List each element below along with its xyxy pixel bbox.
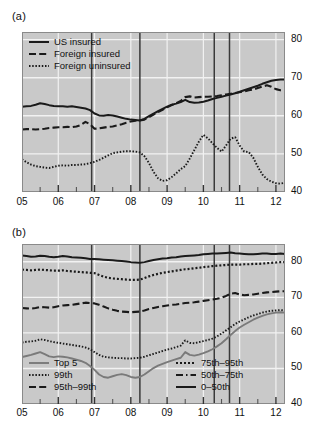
legend-label: Foreign uninsured xyxy=(54,60,131,72)
x-tick-label: 11 xyxy=(230,407,250,418)
panel-a-label: (a) xyxy=(12,10,26,22)
x-tick-label: 06 xyxy=(48,196,68,207)
panel-b-label: (b) xyxy=(12,226,26,238)
panel-a-legend-item[interactable]: Foreign insured xyxy=(28,48,131,60)
legend-key-dashdot xyxy=(175,370,197,380)
legend-key-solid-gray xyxy=(28,358,50,368)
x-tick-label: 07 xyxy=(85,196,105,207)
y-tick-label: 80 xyxy=(291,33,313,44)
legend-key-solid xyxy=(175,382,197,392)
x-tick-label: 09 xyxy=(157,407,177,418)
legend-key-dotted-thick xyxy=(175,358,197,368)
legend-label: 95th–99th xyxy=(54,381,96,393)
legend-label: US insured xyxy=(54,36,101,48)
x-tick-label: 12 xyxy=(266,407,286,418)
legend-label: Foreign insured xyxy=(54,48,120,60)
x-tick-label: 08 xyxy=(121,407,141,418)
x-tick-label: 05 xyxy=(12,196,32,207)
y-tick-label: 60 xyxy=(291,326,313,337)
y-tick-label: 50 xyxy=(291,361,313,372)
panel-b-legend-item[interactable]: 0–50th xyxy=(175,381,243,393)
panel-b-legend-item[interactable]: 50th–75th xyxy=(175,369,243,381)
panel-a-legend-item[interactable]: US insured xyxy=(28,36,131,48)
x-tick-label: 06 xyxy=(48,407,68,418)
legend-key-dashed xyxy=(28,49,50,59)
x-tick-label: 05 xyxy=(12,407,32,418)
legend-label: 50th–75th xyxy=(201,369,243,381)
y-tick-label: 50 xyxy=(291,147,313,158)
legend-label: 0–50th xyxy=(201,381,230,393)
x-tick-label: 11 xyxy=(230,196,250,207)
y-tick-label: 40 xyxy=(291,185,313,196)
panel-b-legend-item[interactable]: 95th–99th xyxy=(28,381,96,393)
legend-key-dashed xyxy=(28,382,50,392)
x-tick-label: 10 xyxy=(193,407,213,418)
x-tick-label: 07 xyxy=(85,407,105,418)
y-tick-label: 40 xyxy=(291,397,313,408)
legend-key-solid xyxy=(28,37,50,47)
legend-key-dotted xyxy=(28,370,50,380)
panel-a-legend: US insuredForeign insuredForeign uninsur… xyxy=(28,36,131,72)
x-tick-label: 08 xyxy=(121,196,141,207)
legend-key-dotted xyxy=(28,61,50,71)
panel-b-legend-right: 75th–95th50th–75th0–50th xyxy=(175,357,243,393)
panel-a-legend-item[interactable]: Foreign uninsured xyxy=(28,60,131,72)
legend-label: 75th–95th xyxy=(201,357,243,369)
panel-b: (b) Top 599th95th–99th 75th–95th50th–75t… xyxy=(0,216,326,441)
panel-a: (a) US insuredForeign insuredForeign uni… xyxy=(0,0,326,216)
legend-label: 99th xyxy=(54,369,73,381)
y-tick-label: 70 xyxy=(291,290,313,301)
x-tick-label: 12 xyxy=(266,196,286,207)
legend-label: Top 5 xyxy=(54,357,77,369)
figure-container: (a) US insuredForeign insuredForeign uni… xyxy=(0,0,326,441)
y-tick-label: 60 xyxy=(291,109,313,120)
x-tick-label: 10 xyxy=(193,196,213,207)
panel-b-legend-item[interactable]: 75th–95th xyxy=(175,357,243,369)
panel-b-legend-item[interactable]: Top 5 xyxy=(28,357,96,369)
x-tick-label: 09 xyxy=(157,196,177,207)
y-tick-label: 80 xyxy=(291,255,313,266)
panel-b-legend-item[interactable]: 99th xyxy=(28,369,96,381)
y-tick-label: 70 xyxy=(291,71,313,82)
panel-b-legend-left: Top 599th95th–99th xyxy=(28,357,96,393)
